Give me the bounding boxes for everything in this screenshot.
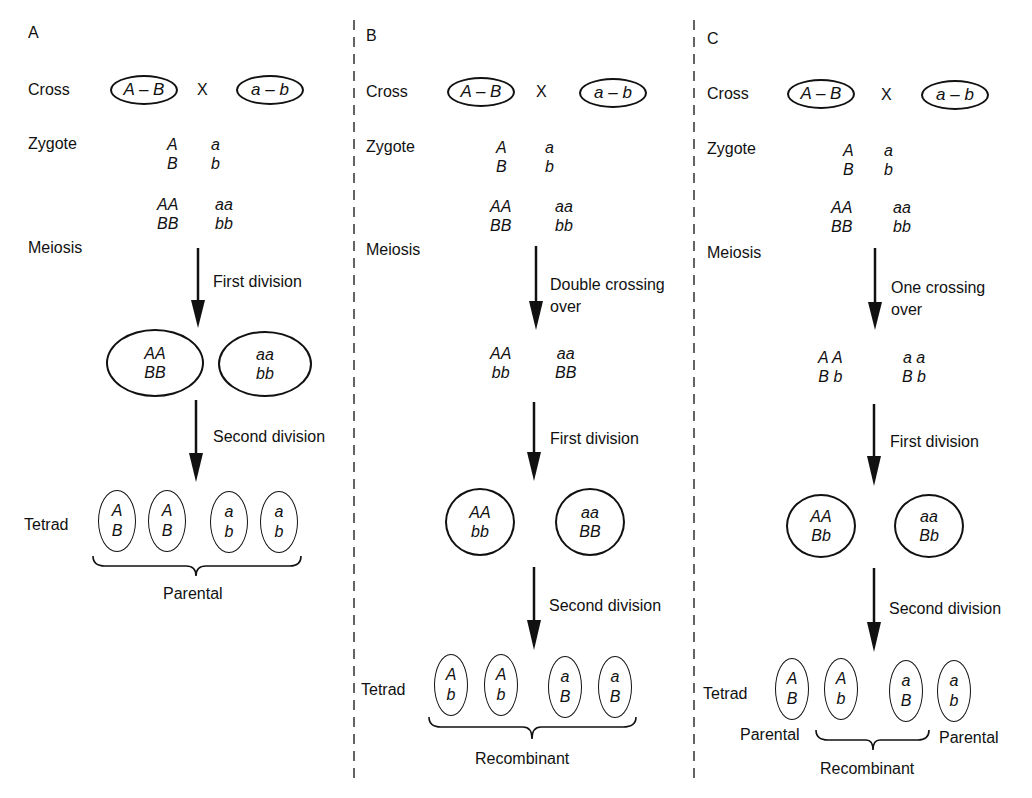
- zygote-allele-column: A B: [167, 135, 178, 173]
- arrow-icon: [189, 400, 203, 482]
- spore: ab: [210, 491, 248, 553]
- replicated-allele-column: AABB: [831, 198, 852, 236]
- zygote-allele-column: ab: [545, 138, 554, 176]
- first-division-label: First division: [550, 430, 639, 448]
- spore: AB: [148, 490, 186, 552]
- cross-symbol: X: [197, 81, 208, 99]
- spore: ab: [260, 491, 298, 553]
- brace-icon: [816, 730, 929, 750]
- zygote-allele-column: AB: [843, 141, 854, 179]
- parent-chromosome-oval: A – B: [447, 77, 515, 107]
- parental-label-left: Parental: [740, 726, 800, 744]
- spore: aB: [598, 656, 632, 718]
- meiosis-label: Meiosis: [707, 244, 761, 262]
- parent-chromosome-oval: a – b: [579, 78, 647, 108]
- panel-letter: A: [28, 24, 39, 42]
- spore: AB: [98, 490, 136, 552]
- brace-icon: [429, 717, 636, 739]
- cross-symbol: X: [881, 86, 892, 104]
- arrow-icon: [529, 246, 543, 330]
- meiosis-label: Meiosis: [28, 239, 82, 257]
- zygote-label: Zygote: [28, 135, 77, 153]
- daughter-cell: AAbb: [445, 488, 515, 556]
- daughter-cell: AABB: [106, 329, 204, 397]
- daughter-cell: aaBB: [555, 488, 625, 556]
- parent-chromosome-oval: A – B: [110, 75, 178, 105]
- zygote-label: Zygote: [707, 140, 756, 158]
- second-division-label: Second division: [213, 428, 325, 446]
- after-crossover-allele-column: AAbb: [490, 344, 511, 382]
- tetrad-label: Tetrad: [703, 685, 747, 703]
- brace-label-parental: Parental: [163, 585, 223, 603]
- cross-label: Cross: [366, 83, 408, 101]
- spore: AB: [775, 658, 809, 720]
- second-division-label: Second division: [889, 600, 1001, 618]
- spore: aB: [889, 660, 923, 722]
- replicated-allele-column: AABB: [490, 197, 511, 235]
- replicated-allele-column: aabb: [555, 197, 573, 235]
- daughter-cell: aabb: [218, 331, 312, 397]
- daughter-cell: aaBb: [894, 494, 964, 558]
- brace-label-recombinant: Recombinant: [820, 760, 914, 778]
- arrow-icon: [527, 567, 541, 650]
- zygote-allele-column: ab: [884, 141, 893, 179]
- crossover-label: One crossing over: [891, 279, 985, 319]
- spore: aB: [548, 656, 582, 718]
- zygote-label: Zygote: [366, 138, 415, 156]
- arrow-icon: [191, 248, 205, 328]
- crossover-label: Double crossing over: [550, 276, 665, 316]
- arrow-icon: [867, 568, 881, 652]
- zygote-allele-column: AB: [496, 138, 507, 176]
- cross-symbol: X: [536, 83, 547, 101]
- daughter-cell: AABb: [786, 494, 856, 558]
- cross-label: Cross: [707, 85, 749, 103]
- first-division-label: First division: [890, 433, 979, 451]
- tetrad-label: Tetrad: [24, 516, 68, 534]
- tetrad-label: Tetrad: [361, 681, 405, 699]
- replicated-allele-column: AA BB: [157, 195, 178, 233]
- spore: Ab: [824, 658, 858, 720]
- first-division-label: First division: [213, 273, 302, 291]
- replicated-allele-column: aa bb: [215, 195, 233, 233]
- arrow-icon: [527, 402, 541, 481]
- parent-chromosome-oval: A – B: [787, 79, 855, 109]
- spore: Ab: [484, 654, 518, 716]
- parent-chromosome-oval: a – b: [921, 80, 989, 110]
- parental-label-right: Parental: [939, 729, 999, 747]
- zygote-allele-column: a b: [211, 135, 220, 173]
- panel-letter: B: [366, 27, 377, 45]
- after-crossover-allele-column: a aB b: [902, 348, 926, 386]
- meiosis-label: Meiosis: [366, 241, 420, 259]
- second-division-label: Second division: [549, 597, 661, 615]
- arrow-icon: [867, 404, 881, 486]
- spore: ab: [937, 660, 971, 722]
- cross-label: Cross: [28, 81, 70, 99]
- after-crossover-allele-column: A AB b: [818, 348, 843, 386]
- after-crossover-allele-column: aaBB: [555, 344, 576, 382]
- parent-chromosome-oval: a – b: [236, 75, 304, 105]
- brace-label-recombinant: Recombinant: [475, 750, 569, 768]
- arrow-icon: [868, 248, 882, 330]
- brace-icon: [93, 556, 301, 576]
- panel-letter: C: [707, 30, 719, 48]
- spore: Ab: [434, 654, 468, 716]
- replicated-allele-column: aabb: [893, 198, 911, 236]
